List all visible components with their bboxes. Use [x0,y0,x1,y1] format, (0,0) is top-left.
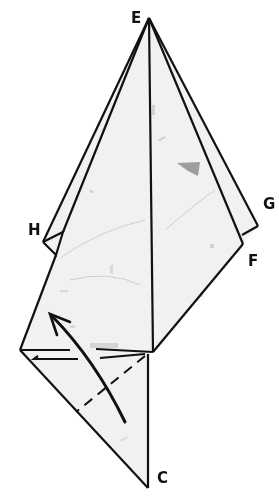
origami-diagram [0,0,279,502]
label-f: F [248,254,258,269]
label-e: E [131,11,141,26]
label-g: G [263,197,275,212]
label-h: H [28,223,41,238]
label-c: C [157,471,168,486]
